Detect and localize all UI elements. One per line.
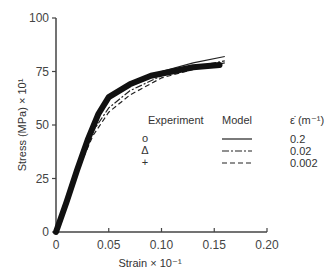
x-tick-label: 0.20: [255, 238, 279, 252]
chart-root: 0255075100 00.050.100.150.20 Stress (MPa…: [0, 0, 336, 280]
y-ticks: 0255075100: [29, 11, 56, 239]
legend-model-header: Model: [222, 114, 252, 126]
x-tick-label: 0: [53, 238, 60, 252]
legend-marker: Δ: [141, 144, 149, 156]
y-tick-label: 75: [36, 65, 50, 79]
legend-rate: 0.2: [290, 133, 305, 145]
y-tick-label: 25: [36, 172, 50, 186]
y-tick-label: 0: [42, 225, 49, 239]
legend-marker: +: [142, 156, 148, 168]
legend-rate: 0.02: [290, 145, 311, 157]
legend-experiment-header: Experiment: [148, 114, 204, 126]
x-tick-label: 0.10: [150, 238, 174, 252]
y-axis-label: Stress (MPa) × 10¹: [16, 78, 28, 171]
legend-marker: o: [142, 132, 148, 144]
x-axis-label: Strain × 10⁻¹: [118, 257, 182, 269]
legend: ExperimentModelε̇ (m⁻¹)o0.2Δ0.02+0.002: [141, 114, 324, 169]
legend-rate-header: ε̇ (m⁻¹): [290, 114, 324, 126]
x-tick-label: 0.05: [97, 238, 121, 252]
y-tick-label: 50: [36, 118, 50, 132]
y-tick-label: 100: [29, 11, 49, 25]
stress-strain-chart: 0255075100 00.050.100.150.20 Stress (MPa…: [0, 0, 336, 280]
x-tick-label: 0.15: [203, 238, 227, 252]
legend-rate: 0.002: [290, 157, 318, 169]
